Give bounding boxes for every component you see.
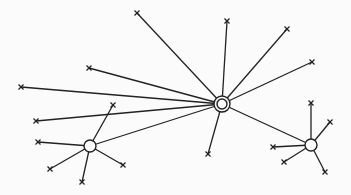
endpoint-markers [19, 11, 333, 185]
x-mark-icon [323, 170, 328, 175]
edge-line [50, 146, 90, 169]
hub-node-left [84, 140, 96, 152]
edge-line [222, 21, 227, 104]
x-mark-icon [48, 167, 53, 172]
network-diagram [0, 0, 351, 195]
hub-node-central [214, 96, 230, 112]
edge-line [222, 62, 312, 104]
edges [21, 13, 330, 182]
edge-line [222, 104, 311, 145]
x-mark-icon [310, 60, 315, 65]
x-mark-icon [328, 120, 333, 125]
edge-line [38, 142, 90, 146]
x-mark-icon [285, 27, 290, 32]
x-mark-icon [135, 11, 140, 16]
x-mark-icon [111, 103, 116, 108]
x-mark-icon [121, 163, 126, 168]
edge-line [222, 29, 287, 104]
hubs [84, 96, 317, 152]
x-mark-icon [282, 160, 287, 165]
edge-line [137, 13, 222, 104]
hub-node-right [305, 139, 317, 151]
